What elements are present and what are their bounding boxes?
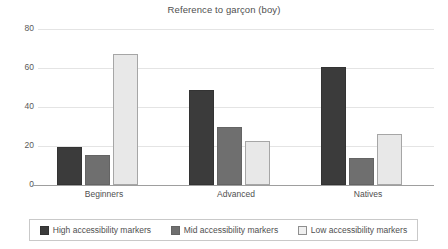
- bar: [189, 90, 214, 185]
- legend-item[interactable]: High accessibility markers: [40, 225, 151, 235]
- bar: [113, 54, 138, 185]
- bar-group: [38, 29, 170, 185]
- bar-group: [170, 29, 302, 185]
- legend-label: Low accessibility markers: [311, 225, 407, 235]
- bar: [377, 134, 402, 185]
- bar: [245, 141, 270, 185]
- y-tick-label-80: 80: [6, 24, 34, 33]
- category-label-advanced: Advanced: [170, 189, 302, 200]
- legend-label: High accessibility markers: [53, 225, 151, 235]
- bar-group: [302, 29, 434, 185]
- plot-area: [38, 29, 434, 185]
- legend-swatch-icon: [171, 226, 180, 235]
- legend-swatch-icon: [298, 226, 307, 235]
- y-tick-label-60: 60: [6, 63, 34, 72]
- chart-legend: High accessibility markersMid accessibil…: [29, 219, 418, 241]
- bar: [321, 67, 346, 185]
- bar: [349, 158, 374, 185]
- y-tick-label-0: 0: [6, 180, 34, 189]
- bar-chart: Reference to garçon (boy) 020406080 High…: [0, 0, 448, 249]
- x-axis-line: [32, 185, 434, 186]
- bar: [85, 155, 110, 185]
- bar: [57, 147, 82, 185]
- y-tick-label-40: 40: [6, 102, 34, 111]
- legend-swatch-icon: [40, 226, 49, 235]
- legend-item[interactable]: Low accessibility markers: [298, 225, 407, 235]
- legend-item[interactable]: Mid accessibility markers: [171, 225, 278, 235]
- chart-title: Reference to garçon (boy): [0, 4, 448, 16]
- legend-label: Mid accessibility markers: [184, 225, 278, 235]
- y-axis-tick-labels: 020406080: [0, 0, 34, 249]
- category-label-natives: Natives: [302, 189, 434, 200]
- y-tick-label-20: 20: [6, 141, 34, 150]
- bar: [217, 127, 242, 185]
- category-label-beginners: Beginners: [38, 189, 170, 200]
